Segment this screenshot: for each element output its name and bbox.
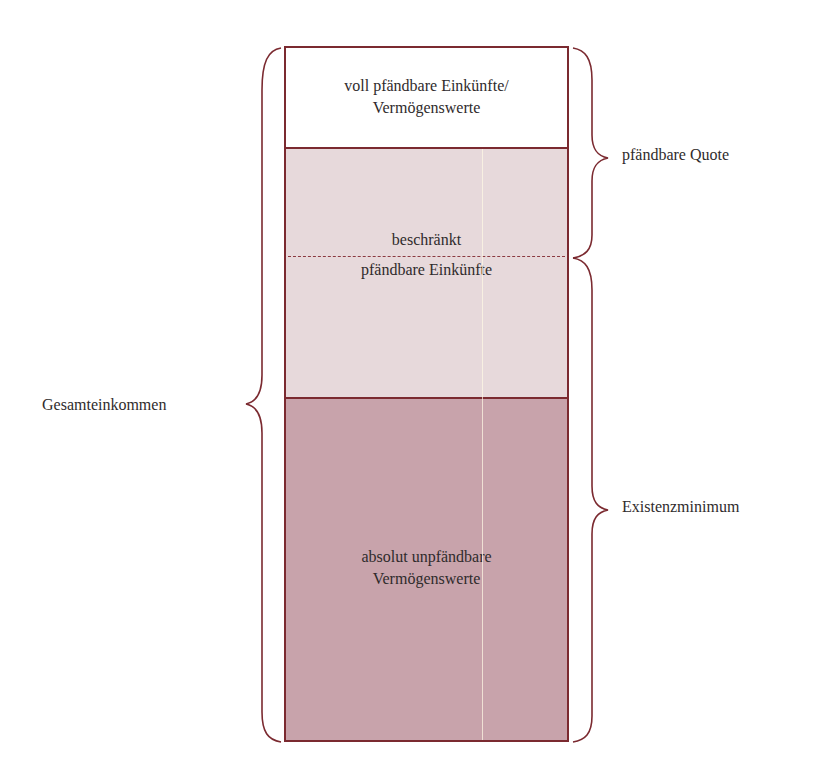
total-income-label: Gesamteinkommen <box>42 396 166 414</box>
label-line: Vermögenswerte <box>286 568 567 590</box>
dashed-divider <box>288 256 565 257</box>
right-top-brace-icon <box>573 48 608 258</box>
right-bottom-brace-icon <box>573 258 608 742</box>
segment-limited-label-upper: beschränkt <box>286 231 567 249</box>
segment-exempt-label: absolut unpfändbare Vermögenswerte <box>286 546 567 590</box>
subsistence-minimum-label: Existenzminimum <box>622 498 739 516</box>
garnishable-quota-label: pfändbare Quote <box>622 146 729 164</box>
label-line: voll pfändbare Einkünfte/ <box>286 75 567 97</box>
income-column: voll pfändbare Einkünfte/ Vermögenswerte… <box>284 46 569 742</box>
label-line: Vermögenswerte <box>286 97 567 119</box>
segment-limited-label-lower: pfändbare Einkünfte <box>286 261 567 279</box>
paper-crease <box>482 149 483 740</box>
segment-fully-garnishable: voll pfändbare Einkünfte/ Vermögenswerte <box>286 48 567 149</box>
label-line: absolut unpfändbare <box>286 546 567 568</box>
segment-limited-garnishable: beschränkt pfändbare Einkünfte <box>286 149 567 399</box>
garnishment-diagram: voll pfändbare Einkünfte/ Vermögenswerte… <box>0 0 827 780</box>
segment-fully-garnishable-label: voll pfändbare Einkünfte/ Vermögenswerte <box>286 75 567 119</box>
left-brace-icon <box>246 48 281 742</box>
segment-absolutely-exempt: absolut unpfändbare Vermögenswerte <box>286 399 567 740</box>
